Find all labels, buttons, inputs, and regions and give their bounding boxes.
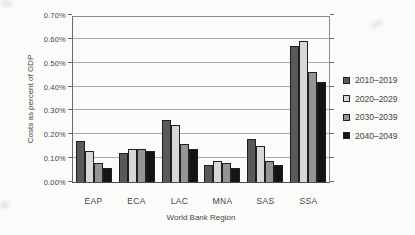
y-tick-label: 0.30% [20,107,66,115]
axis-tick [68,86,72,87]
axis-tick [330,86,334,87]
bar [299,41,308,182]
axis-tick [330,181,334,182]
axis-tick [330,62,334,63]
x-category-label: MNA [205,196,241,206]
y-tick-label: 0.60% [20,36,66,44]
bar [247,139,256,182]
bar [290,46,299,182]
x-category-labels: EAPECALACMNASASSSA [72,196,330,206]
bar-cluster-eap [76,141,112,182]
bar [146,151,155,182]
scan-artifact [1,1,12,6]
legend-item: 2010–2019 [343,76,398,85]
y-axis-title: Costs as percent of GDP [26,55,35,143]
bar [231,168,240,182]
axis-tick [68,109,72,110]
bar [274,165,283,182]
bar [128,149,137,182]
legend-item: 2030–2039 [343,113,398,122]
axis-tick [330,14,334,15]
legend: 2010–20192020–20292030–20392040–2049 [343,76,398,150]
y-tick-label: 0.50% [20,60,66,68]
bar [119,153,128,182]
bar-chart: Costs as percent of GDP EAPECALACMNASASS… [0,0,415,235]
x-category-label: LAC [162,196,198,206]
scan-artifact [370,19,384,29]
axis-tick [330,38,334,39]
bar [162,120,171,182]
x-category-label: SSA [291,196,327,206]
bar [308,72,317,182]
axis-tick [68,14,72,15]
bar [265,161,274,182]
axis-tick [68,181,72,182]
bar [85,151,94,182]
axis-tick [68,157,72,158]
legend-swatch [343,95,350,102]
bar-cluster-ssa [290,41,326,182]
x-category-label: SAS [248,196,284,206]
bar [180,144,189,182]
bar [317,82,326,182]
legend-swatch [343,114,350,121]
bar-cluster-sas [247,139,283,182]
legend-label: 2020–2029 [355,94,398,104]
x-category-label: EAP [76,196,112,206]
legend-item: 2040–2049 [343,132,398,141]
axis-tick [330,157,334,158]
scan-artifact [0,202,9,208]
legend-label: 2010–2019 [355,75,398,85]
bar-clusters [73,17,329,182]
bar [137,149,146,182]
x-axis-title: World Bank Region [72,213,330,222]
bar [213,161,222,182]
bar [256,146,265,182]
x-category-label: ECA [119,196,155,206]
bar [204,165,213,182]
bar-cluster-mna [204,161,240,182]
y-tick-label: 0.40% [20,84,66,92]
bar [222,163,231,182]
y-tick-label: 0.70% [20,12,66,20]
axis-tick [330,133,334,134]
bar [171,125,180,182]
bar [94,163,103,182]
y-tick-label: 0.10% [20,155,66,163]
bar-cluster-eca [119,149,155,182]
axis-tick [68,38,72,39]
plot-area [72,16,330,183]
legend-item: 2020–2029 [343,95,398,104]
bar-cluster-lac [162,120,198,182]
legend-label: 2040–2049 [355,131,398,141]
legend-label: 2030–2039 [355,112,398,122]
bar [103,168,112,182]
bar [189,149,198,182]
axis-tick [330,109,334,110]
axis-tick [68,62,72,63]
y-tick-label: 0.20% [20,131,66,139]
bar [76,141,85,182]
legend-swatch [343,132,350,139]
axis-tick [68,133,72,134]
legend-swatch [343,77,350,84]
y-tick-label: 0.00% [20,179,66,187]
